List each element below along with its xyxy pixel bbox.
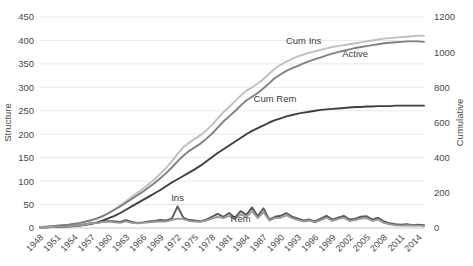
y-axis-tick-label: 400 <box>18 35 34 46</box>
x-axis-tick-label: 1954 <box>59 232 80 253</box>
y-axis-tick-label: 50 <box>23 199 34 210</box>
series-label-rem: Rem <box>231 213 251 224</box>
x-axis-tick-label: 1972 <box>162 232 183 253</box>
x-axis-tick-label: 1948 <box>24 232 45 253</box>
y2-axis-tick-label: 600 <box>434 117 450 128</box>
y-axis-tick-label: 150 <box>18 152 34 163</box>
y2-axis-tick-label: 400 <box>434 152 450 163</box>
x-axis-tick-label: 2011 <box>386 232 407 253</box>
y2-axis-title: Cumulative <box>454 99 465 147</box>
y2-axis-tick-label: 800 <box>434 82 450 93</box>
series-label-ins: Ins <box>171 192 184 203</box>
x-axis-tick-label: 1990 <box>265 232 286 253</box>
x-axis-tick-label: 1978 <box>196 232 217 253</box>
y-axis-tick-label: 300 <box>18 82 34 93</box>
y2-axis-tick-label: 0 <box>434 222 439 233</box>
x-axis-tick-label: 1975 <box>179 232 200 253</box>
x-axis-tick-label: 1993 <box>282 232 303 253</box>
x-axis-tick-label: 1963 <box>110 232 131 253</box>
x-axis-tick-label: 1969 <box>145 232 166 253</box>
x-axis-tick-label: 2005 <box>351 232 372 253</box>
y-axis-tick-label: 250 <box>18 105 34 116</box>
series-label-cum-ins: Cum Ins <box>286 35 322 46</box>
series-line-cum-rem <box>40 106 424 228</box>
x-axis-tick-label: 1957 <box>76 232 97 253</box>
x-axis-tick-label: 1960 <box>93 232 114 253</box>
y2-axis-tick-label: 1200 <box>434 11 455 22</box>
x-axis-tick-label: 1987 <box>248 232 269 253</box>
x-axis-tick-label: 1966 <box>127 232 148 253</box>
series-line-cum-ins <box>40 36 424 227</box>
y-axis-tick-label: 0 <box>29 222 34 233</box>
x-axis-tick-label: 1984 <box>231 232 252 253</box>
chart-container: 0501001502002503003504004500200400600800… <box>0 0 473 266</box>
y2-axis-tick-label: 1000 <box>434 47 455 58</box>
x-axis-tick-label: 1996 <box>299 232 320 253</box>
x-axis-tick-label: 2008 <box>368 232 389 253</box>
x-axis-tick-label: 2002 <box>334 232 355 253</box>
series-label-cum-rem: Cum Rem <box>254 93 297 104</box>
x-axis-tick-label: 1981 <box>213 232 234 253</box>
y2-axis-tick-label: 200 <box>434 187 450 198</box>
y-axis-tick-label: 450 <box>18 11 34 22</box>
series-label-active: Active <box>342 48 368 59</box>
x-axis-tick-label: 1999 <box>316 232 337 253</box>
x-axis-tick-label: 1951 <box>41 232 62 253</box>
x-axis-tick-label: 2014 <box>402 232 423 253</box>
y-axis-tick-label: 200 <box>18 129 34 140</box>
y-axis-title: Structure <box>2 103 13 142</box>
y-axis-tick-label: 100 <box>18 176 34 187</box>
line-chart: 0501001502002503003504004500200400600800… <box>0 0 473 266</box>
y-axis-tick-label: 350 <box>18 58 34 69</box>
